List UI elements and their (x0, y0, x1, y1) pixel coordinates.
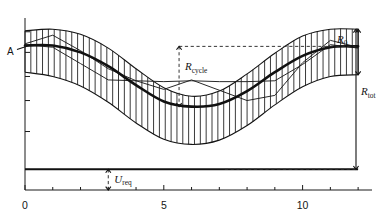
r-cycle-label: Rcycle (184, 60, 208, 75)
point-a-annotation: A (7, 46, 29, 57)
point-a-label: A (7, 46, 14, 57)
lower-band-edge-curve (25, 72, 358, 144)
x-axis-tick-labels: 0510 (22, 199, 309, 211)
r-zero-label-sub: 0 (344, 39, 348, 48)
r-zero-annotation: R0 (336, 29, 361, 75)
u-req-label-sub: req (122, 178, 132, 187)
r-cycle-label-sub: cycle (192, 66, 208, 75)
x-tick-label: 0 (22, 199, 28, 211)
u-req-annotation: Ureq (106, 169, 132, 190)
x-tick-label: 5 (161, 199, 167, 211)
figure-root: 0510 Rcycle R0 (0, 0, 378, 216)
x-tick-label: 10 (297, 199, 309, 211)
mean-curve (25, 45, 358, 107)
r-tot-label-sub: tot (368, 91, 377, 100)
point-a-leader-line (17, 46, 29, 50)
r-tot-label: Rtot (360, 85, 376, 100)
hatched-band-plot: 0510 Rcycle R0 (0, 0, 378, 216)
x-axis-ticks (25, 185, 358, 190)
y-axis-ticks (25, 32, 30, 170)
r-tot-annotation: Rtot (225, 29, 377, 169)
u-req-label: Ureq (114, 173, 132, 188)
